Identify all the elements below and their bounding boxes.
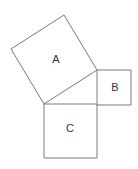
label-b: B <box>111 81 118 93</box>
pythagorean-diagram: A B C <box>0 0 138 169</box>
label-c: C <box>66 122 74 134</box>
label-a: A <box>52 53 60 65</box>
